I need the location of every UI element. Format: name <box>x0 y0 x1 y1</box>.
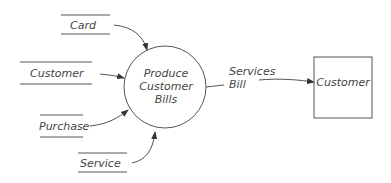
external-entity-customer: Customer <box>314 57 372 118</box>
store-label: Purchase <box>39 120 90 133</box>
flow-arrow-services-bill <box>259 79 314 82</box>
entity-label: Customer <box>316 76 371 89</box>
data-store-service: Service <box>78 153 127 172</box>
store-label: Card <box>70 19 97 32</box>
store-label: Customer <box>30 67 85 80</box>
process-label-line-2: Customer <box>139 80 194 93</box>
flow-arrow-card <box>114 25 147 50</box>
flow-arrow-customer <box>100 74 124 78</box>
process-produce-customer-bills: Produce Customer Bills <box>124 46 206 128</box>
flow-arrow-purchase <box>90 110 128 126</box>
data-store-customer: Customer <box>20 62 92 84</box>
data-store-card: Card <box>61 15 110 34</box>
flow-label-line-2: Bill <box>229 78 246 91</box>
process-label-line-3: Bills <box>155 93 178 106</box>
flow-line-stub <box>206 85 224 87</box>
flow-arrow-service <box>132 132 155 163</box>
flow-services-bill: Services Bill <box>206 65 314 91</box>
store-label: Service <box>80 157 121 170</box>
data-store-purchase: Purchase <box>39 115 90 137</box>
flow-label-line-1: Services <box>229 65 276 78</box>
data-flow-diagram: Produce Customer Bills Card Customer Pur… <box>0 0 391 183</box>
process-label-line-1: Produce <box>144 67 189 80</box>
